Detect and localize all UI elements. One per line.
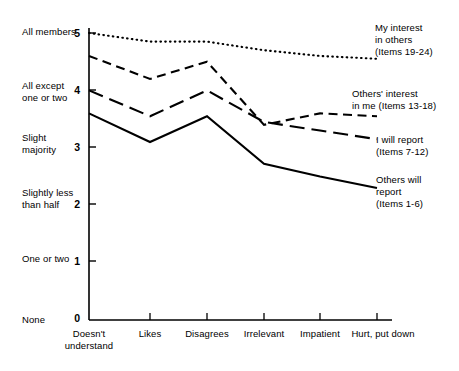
series-lines <box>89 33 377 188</box>
x-category-label-5-line1: Hurt, put down <box>341 328 425 340</box>
legend-i-will-report: I will report (Items 7-12) <box>376 134 428 158</box>
x-category-label-0: Doesn't understand <box>59 328 119 351</box>
x-category-label-5: Hurt, put down <box>341 328 425 340</box>
x-category-label-0-line1: Doesn't <box>59 328 119 340</box>
legend-1-line2: in me (Items 13-18) <box>352 100 436 112</box>
legend-others-interest-in-me: Others' interest in me (Items 13-18) <box>352 88 436 112</box>
legend-2-line2: (Items 7-12) <box>376 146 428 158</box>
legend-3-line2: report <box>376 186 423 198</box>
x-category-label-1: Likes <box>120 328 180 340</box>
legend-others-will-report: Others will report (Items 1-6) <box>376 174 423 210</box>
x-category-label-3: Irrelevant <box>233 328 295 340</box>
legend-my-interest-in-others: My interest in others (Items 19-24) <box>375 22 433 58</box>
series-line-others-will-report <box>89 113 377 188</box>
legend-1-line1: Others' interest <box>352 88 436 100</box>
axes <box>89 28 392 320</box>
x-category-label-2-line1: Disagrees <box>175 328 239 340</box>
series-line-others-interest-in-me <box>89 56 377 125</box>
legend-0-line3: (Items 19-24) <box>375 46 433 58</box>
legend-0-line2: in others <box>375 34 433 46</box>
x-category-label-1-line1: Likes <box>120 328 180 340</box>
x-category-label-3-line1: Irrelevant <box>233 328 295 340</box>
legend-0-line1: My interest <box>375 22 433 34</box>
x-category-label-0-line2: understand <box>59 340 119 352</box>
legend-3-line3: (Items 1-6) <box>376 198 423 210</box>
series-line-my-interest-in-others <box>89 33 377 59</box>
x-category-label-2: Disagrees <box>175 328 239 340</box>
legend-2-line1: I will report <box>376 134 428 146</box>
chart-root: All members All except one or two Slight… <box>0 0 459 371</box>
legend-3-line1: Others will <box>376 174 423 186</box>
